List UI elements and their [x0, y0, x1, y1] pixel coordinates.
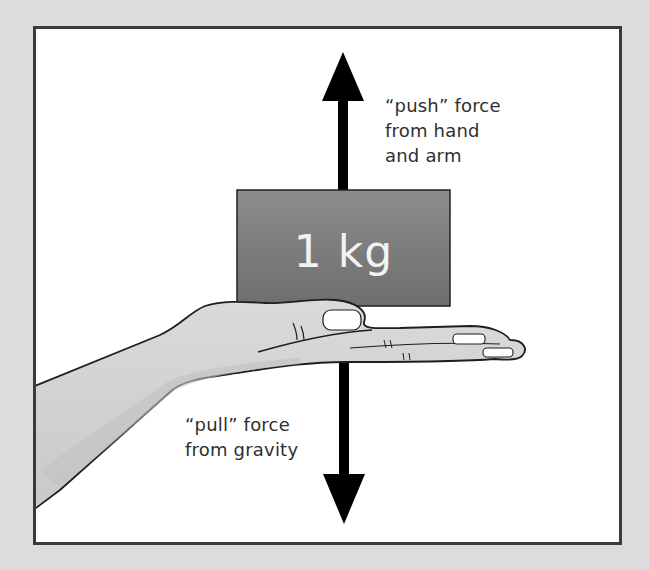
- pull-label-line: “pull” force: [185, 412, 298, 437]
- push-label-line: and arm: [385, 143, 501, 168]
- mass-label: 1 kg: [237, 224, 450, 280]
- push-label-line: “push” force: [385, 93, 501, 118]
- pull-arrow-icon: [323, 355, 365, 524]
- finger-nail: [453, 334, 485, 344]
- diagram-art: [0, 0, 649, 570]
- thumb-nail: [323, 310, 361, 330]
- push-arrow-icon: [322, 52, 364, 192]
- hand-icon: [20, 300, 525, 520]
- pull-force-label: “pull” force from gravity: [185, 412, 298, 462]
- push-force-label: “push” force from hand and arm: [385, 93, 501, 168]
- push-label-line: from hand: [385, 118, 501, 143]
- finger-nail: [483, 348, 513, 357]
- pull-label-line: from gravity: [185, 437, 298, 462]
